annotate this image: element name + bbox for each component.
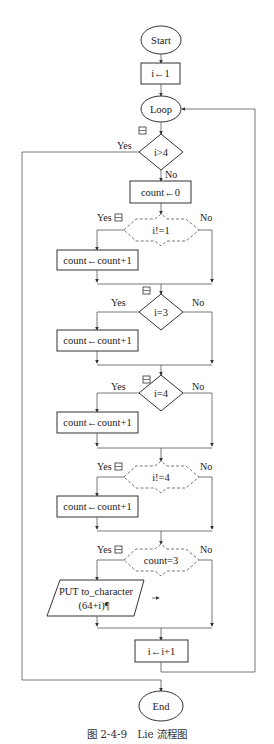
yes-label: Yes	[97, 544, 112, 555]
yes-label: Yes	[117, 140, 132, 151]
reset-count-process[interactable]: count←0	[130, 181, 191, 203]
no-label: No	[200, 212, 212, 223]
decision-i-ne-4[interactable]: i!=4	[124, 461, 199, 493]
collapse-icon[interactable]	[139, 127, 146, 134]
decision-i-gt-4[interactable]: i>4	[139, 134, 183, 170]
process-label: count←count+1	[63, 335, 131, 346]
collapse-icon[interactable]	[143, 376, 150, 383]
decision-label: i!=4	[152, 472, 170, 483]
increment-count-process[interactable]: count←count+1	[57, 412, 138, 433]
decision-count-eq-3[interactable]: count=3	[124, 544, 199, 576]
process-label: count←count+1	[63, 255, 131, 266]
reset-label: count←0	[141, 187, 180, 198]
process-label: i←i+1	[148, 646, 176, 657]
start-terminal[interactable]: Start	[141, 26, 181, 54]
increment-i-process[interactable]: i←i+1	[135, 640, 188, 662]
no-label: No	[192, 381, 204, 392]
increment-count-process[interactable]: count←count+1	[57, 250, 138, 270]
no-label: No	[200, 544, 212, 555]
decision-i-ne-1[interactable]: i!=1	[124, 214, 199, 246]
collapse-icon[interactable]	[115, 214, 122, 221]
init-label: i←1	[151, 68, 170, 79]
decision-label: i=3	[154, 307, 168, 318]
yes-label: Yes	[97, 461, 112, 472]
loop-terminal[interactable]: Loop	[141, 96, 181, 122]
decision-i-eq-3[interactable]: i=3	[139, 294, 183, 330]
process-label: count←count+1	[63, 417, 131, 428]
process-label: count←count+1	[63, 501, 131, 512]
increment-count-process[interactable]: count←count+1	[57, 330, 138, 351]
end-terminal[interactable]: End	[139, 691, 183, 721]
output-line1: PUT to_character	[59, 586, 134, 597]
end-label: End	[153, 701, 171, 712]
no-label: No	[192, 297, 204, 308]
init-process[interactable]: i←1	[141, 63, 180, 84]
collapse-icon[interactable]	[115, 546, 122, 553]
figure-caption: 图 2-4-9 Lie 流程图	[87, 728, 187, 740]
output-parallelogram[interactable]: PUT to_character (64+i)¶	[47, 580, 144, 616]
start-label: Start	[151, 35, 171, 46]
yes-label: Yes	[111, 381, 126, 392]
decision-label: i!=1	[152, 225, 170, 236]
collapse-icon[interactable]	[143, 287, 150, 294]
increment-count-process[interactable]: count←count+1	[57, 496, 138, 517]
yes-label: Yes	[111, 297, 126, 308]
lie-flowchart: Start i←1 Loop i>4 Yes No count←0 i!=1 Y…	[0, 0, 274, 744]
decision-label: count=3	[144, 555, 179, 566]
decision-label: i=4	[154, 388, 169, 399]
collapse-icon[interactable]	[115, 463, 122, 470]
loop-label: Loop	[150, 104, 172, 115]
yes-label: Yes	[97, 212, 112, 223]
output-line2: (64+i)¶	[78, 600, 109, 612]
no-label: No	[165, 169, 177, 180]
decision-label: i>4	[154, 147, 169, 158]
no-label: No	[200, 461, 212, 472]
